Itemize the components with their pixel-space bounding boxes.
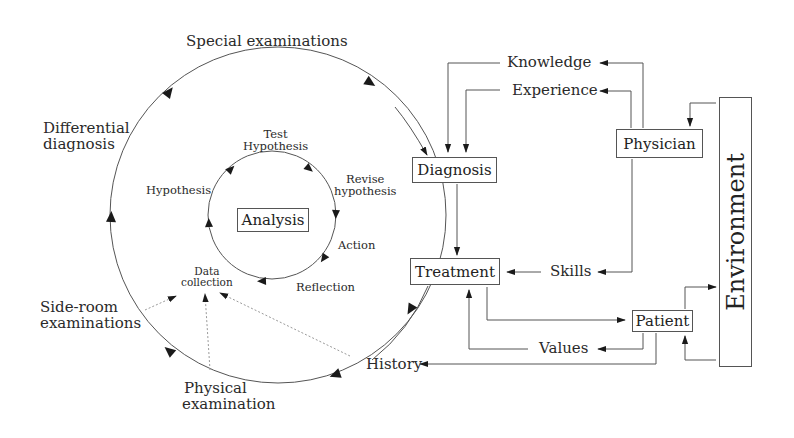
clinical-reasoning-diagram: Special examinations Differential diagno…	[0, 0, 794, 438]
data-collection-label: Data collection	[181, 266, 233, 288]
physician-box: Physician	[616, 129, 703, 158]
values-label: Values	[539, 341, 588, 357]
data-collection-inputs	[145, 293, 350, 370]
skills-label: Skills	[550, 264, 591, 280]
environment-box: Environment	[719, 97, 752, 367]
treatment-box: Treatment	[410, 258, 500, 285]
revise-hypothesis-label: Revise hypothesis	[334, 173, 397, 197]
action-label: Action	[338, 239, 375, 251]
physical-examination-label: Physical examination	[182, 381, 275, 413]
experience-label: Experience	[512, 83, 598, 99]
special-examinations-label: Special examinations	[186, 34, 348, 50]
reflection-label: Reflection	[296, 281, 355, 293]
differential-diagnosis-label: Differential diagnosis	[43, 121, 130, 153]
analysis-box: Analysis	[237, 208, 309, 232]
patient-box: Patient	[632, 310, 693, 332]
diagnosis-box: Diagnosis	[412, 157, 497, 183]
history-label: History	[366, 357, 422, 373]
hypothesis-label: Hypothesis	[146, 184, 211, 196]
side-room-examinations-label: Side-room examinations	[40, 300, 141, 332]
knowledge-label: Knowledge	[507, 55, 592, 71]
test-hypothesis-label: Test Hypothesis	[243, 128, 308, 152]
